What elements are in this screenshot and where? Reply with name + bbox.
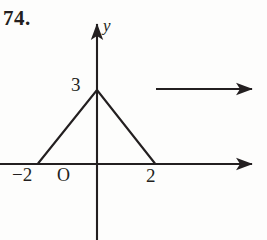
x-tick-label-negative-2: −2 <box>12 165 32 184</box>
origin-label: O <box>57 166 70 184</box>
y-axis-label: y <box>103 17 111 34</box>
x-tick-label-2: 2 <box>146 166 156 185</box>
coordinate-graph <box>0 0 267 240</box>
figure-page: 74. y 3 O −2 2 <box>0 0 267 240</box>
problem-number: 74. <box>3 8 31 29</box>
y-tick-label-3: 3 <box>71 75 81 94</box>
